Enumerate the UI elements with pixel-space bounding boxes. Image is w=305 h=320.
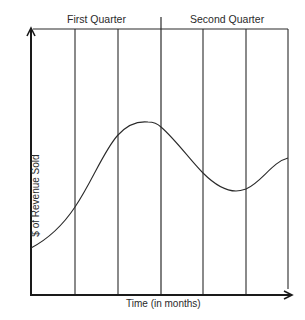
second-quarter-label: Second Quarter: [190, 13, 264, 25]
grid-lines: [75, 29, 288, 295]
revenue-chart: [0, 0, 305, 320]
x-axis-label: Time (in months): [126, 298, 201, 309]
revenue-curve: [31, 122, 288, 248]
first-quarter-label: First Quarter: [67, 13, 126, 25]
y-axis-label: $ of Revenue Sold: [30, 141, 41, 251]
